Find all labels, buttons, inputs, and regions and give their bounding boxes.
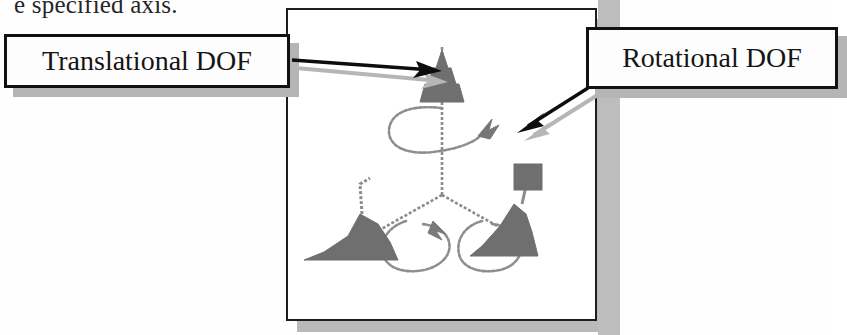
translational-callout-label: Translational DOF	[42, 47, 252, 75]
rotational-callout-label: Rotational DOF	[622, 44, 802, 72]
translational-callout-box[interactable]: Translational DOF	[4, 34, 290, 88]
rotational-callout-box[interactable]: Rotational DOF	[586, 27, 838, 89]
figure-frame	[286, 8, 597, 321]
cropped-body-text: e specified axis.	[14, 0, 178, 19]
